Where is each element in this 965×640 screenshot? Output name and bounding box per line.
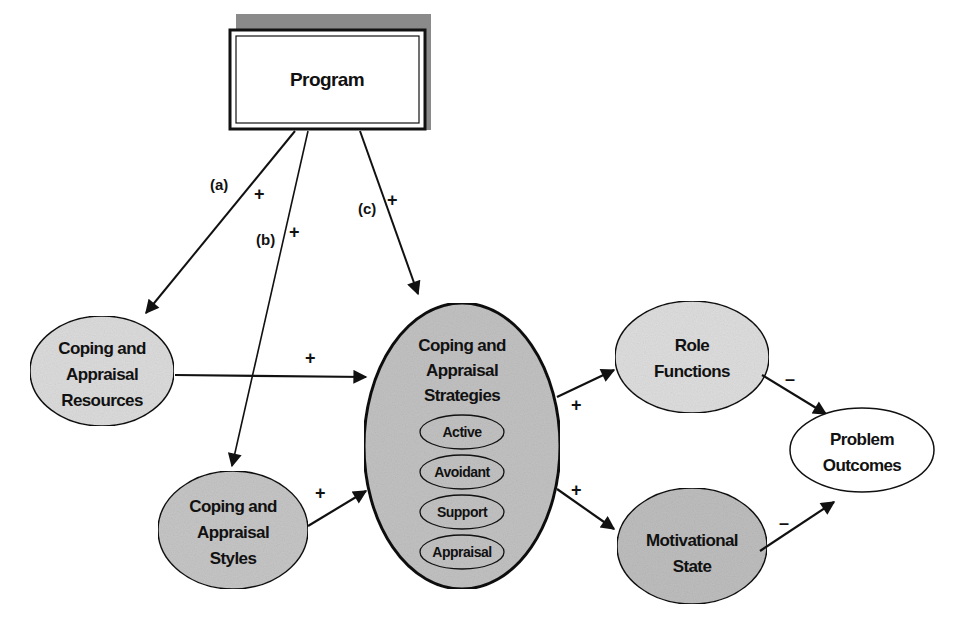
edge-b-arrow bbox=[232, 131, 308, 466]
problem-outcomes-ellipse bbox=[790, 408, 934, 492]
strategy-support-label: Support bbox=[437, 504, 488, 520]
edge-motivation-outcomes-sign: – bbox=[779, 513, 789, 533]
problem-outcomes-node: Problem Outcomes bbox=[790, 408, 934, 492]
resources-label-line1: Coping and bbox=[58, 339, 146, 358]
strategy-appraisal-label: Appraisal bbox=[432, 544, 491, 560]
edge-b-sign: + bbox=[289, 222, 300, 242]
styles-label-line3: Styles bbox=[210, 549, 257, 568]
edge-a-sign: + bbox=[254, 184, 265, 204]
role-functions-label-line2: Functions bbox=[654, 362, 730, 381]
strategy-avoidant-label: Avoidant bbox=[434, 464, 490, 480]
edge-strategies-motivation bbox=[557, 489, 614, 529]
strategies-label-line2: Appraisal bbox=[426, 361, 498, 380]
styles-label-line2: Appraisal bbox=[197, 523, 269, 542]
motivational-state-node: Motivational State bbox=[617, 488, 767, 604]
styles-label-line1: Coping and bbox=[189, 497, 277, 516]
coping-model-diagram: Program (a) + (b) + (c) + Coping and App… bbox=[0, 0, 965, 640]
edge-strategies-role bbox=[557, 370, 614, 397]
edge-a-label: (a) bbox=[210, 176, 228, 193]
edge-strategies-role-sign: + bbox=[571, 395, 582, 415]
styles-node: Coping and Appraisal Styles bbox=[158, 471, 308, 589]
edge-motivation-outcomes bbox=[760, 502, 834, 551]
program-node: Program bbox=[230, 14, 431, 132]
strategy-active-label: Active bbox=[442, 424, 482, 440]
strategies-node: Coping and Appraisal Strategies Active A… bbox=[364, 303, 560, 589]
resources-label-line2: Appraisal bbox=[66, 365, 138, 384]
edge-strategies-motivation-sign: + bbox=[571, 480, 582, 500]
strategies-label-line1: Coping and bbox=[418, 336, 506, 355]
program-label: Program bbox=[290, 69, 364, 90]
edge-role-outcomes-sign: – bbox=[785, 369, 795, 389]
edge-c-sign: + bbox=[387, 190, 398, 210]
motivational-state-label-line1: Motivational bbox=[646, 531, 738, 550]
edge-c-label: (c) bbox=[358, 200, 376, 217]
edge-resources-strategies-sign: + bbox=[305, 348, 316, 368]
edge-b-label: (b) bbox=[256, 231, 275, 248]
strategies-label-line3: Strategies bbox=[424, 386, 500, 405]
edge-resources-strategies bbox=[175, 375, 366, 377]
role-functions-node: Role Functions bbox=[615, 301, 769, 413]
role-functions-label-line1: Role bbox=[675, 336, 710, 355]
motivational-state-label-line2: State bbox=[673, 557, 712, 576]
problem-outcomes-label-line2: Outcomes bbox=[823, 456, 901, 475]
resources-node: Coping and Appraisal Resources bbox=[30, 316, 174, 426]
role-functions-ellipse bbox=[615, 301, 769, 413]
problem-outcomes-label-line1: Problem bbox=[830, 430, 894, 449]
resources-label-line3: Resources bbox=[61, 391, 143, 410]
edge-styles-strategies-sign: + bbox=[315, 483, 326, 503]
